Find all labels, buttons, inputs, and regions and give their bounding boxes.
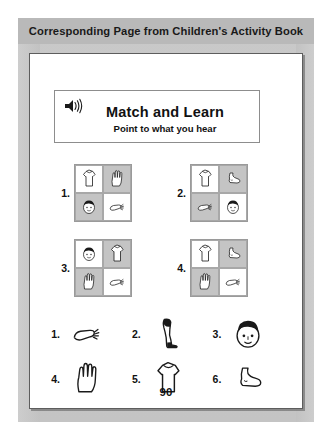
match-cell-arm[interactable] — [219, 268, 247, 296]
match-cell-hand[interactable] — [191, 268, 219, 296]
match-cell-hand[interactable] — [75, 268, 103, 296]
title-subheading: Point to what you hear — [55, 123, 259, 134]
answer-bank-picture — [64, 314, 110, 354]
answer-bank-item-head[interactable]: 3. — [207, 314, 288, 354]
shirt-icon — [106, 243, 128, 265]
hand-icon — [194, 271, 216, 293]
match-item-3[interactable]: 3. — [54, 239, 132, 297]
shirt-icon — [194, 168, 216, 190]
match-item-1[interactable]: 1. — [54, 164, 132, 222]
match-item-number: 4. — [170, 262, 186, 274]
foot-icon — [222, 243, 244, 265]
answer-bank-item-arm[interactable]: 1. — [46, 314, 127, 354]
answer-bank-row-1: 1.2.3. — [46, 312, 288, 356]
match-cell-shirt[interactable] — [103, 240, 131, 268]
answer-bank-number: 1. — [46, 328, 60, 340]
match-item-number: 3. — [54, 262, 70, 274]
shirt-icon — [78, 168, 100, 190]
match-item-2[interactable]: 2. — [170, 164, 248, 222]
arm-icon — [194, 196, 216, 218]
match-item-number: 1. — [54, 187, 70, 199]
foot-icon — [222, 168, 244, 190]
hand-icon — [106, 168, 128, 190]
answer-bank-item-leg[interactable]: 2. — [127, 314, 208, 354]
face-icon — [78, 243, 100, 265]
answer-bank-number: 5. — [127, 373, 141, 385]
arm-icon — [106, 271, 128, 293]
answer-bank-number: 2. — [127, 328, 141, 340]
match-cell-shirt[interactable] — [191, 165, 219, 193]
match-cell-shirt[interactable] — [191, 240, 219, 268]
match-grid[interactable] — [190, 239, 248, 297]
activity-page: Match and Learn Point to what you hear 1… — [29, 53, 303, 409]
match-grid[interactable] — [74, 239, 132, 297]
head-icon — [228, 314, 268, 354]
answer-bank-picture — [145, 314, 191, 354]
match-cell-arm[interactable] — [103, 268, 131, 296]
match-grid[interactable] — [190, 164, 248, 222]
match-cell-arm[interactable] — [191, 193, 219, 221]
arm-icon — [67, 314, 107, 354]
header-banner: Corresponding Page from Children's Activ… — [18, 18, 314, 44]
page-number: 90 — [30, 386, 302, 398]
hand-icon — [78, 271, 100, 293]
banner-title: Corresponding Page from Children's Activ… — [29, 25, 303, 37]
match-grid[interactable] — [74, 164, 132, 222]
answer-bank-number: 3. — [207, 328, 221, 340]
match-cell-face[interactable] — [75, 193, 103, 221]
title-heading: Match and Learn — [55, 104, 259, 120]
face-icon — [222, 196, 244, 218]
shirt-icon — [194, 243, 216, 265]
match-cell-shirt[interactable] — [75, 165, 103, 193]
title-card: Match and Learn Point to what you hear — [54, 90, 260, 143]
match-cell-foot[interactable] — [219, 165, 247, 193]
match-item-number: 2. — [170, 187, 186, 199]
answer-bank-number: 4. — [46, 373, 60, 385]
leg-icon — [148, 314, 188, 354]
arm-icon — [106, 196, 128, 218]
arm-icon — [222, 271, 244, 293]
match-cell-hand[interactable] — [103, 165, 131, 193]
match-cell-arm[interactable] — [103, 193, 131, 221]
match-cell-foot[interactable] — [219, 240, 247, 268]
answer-bank-number: 6. — [207, 373, 221, 385]
match-item-4[interactable]: 4. — [170, 239, 248, 297]
answer-bank-picture — [225, 314, 271, 354]
face-icon — [78, 196, 100, 218]
match-cell-face[interactable] — [75, 240, 103, 268]
match-cell-face[interactable] — [219, 193, 247, 221]
